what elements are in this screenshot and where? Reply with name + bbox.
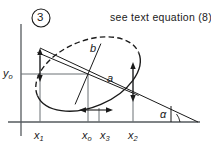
ellipse-solid-arc [37, 53, 151, 126]
x0-axis-label: xo [82, 130, 92, 142]
figure-caption: see text equation (8) [110, 12, 211, 23]
y0-sub: o [9, 72, 13, 81]
semi-major-axis-label: a [107, 73, 113, 84]
x2-axis-label: x2 [128, 130, 138, 142]
alpha-angle-arc [177, 114, 181, 122]
x2-sub: 2 [134, 134, 138, 143]
ellipse-dashed-arc [24, 22, 138, 95]
bottom-double-arrow [79, 107, 113, 112]
semi-minor-axis-label: b [90, 43, 96, 54]
x3-axis-label: x3 [100, 130, 110, 142]
projection-lines [21, 56, 133, 122]
x1-double-arrow [37, 48, 42, 82]
x0-sub: o [88, 134, 92, 143]
figure-panel: 3 see text equation (8) b a α yo x1 xo x… [0, 0, 211, 146]
alpha-angle-label: α [160, 109, 166, 120]
figure-number-label: 3 [37, 12, 43, 24]
y0-axis-label: yo [3, 68, 13, 80]
x3-sub: 3 [106, 134, 110, 143]
x1-axis-label: x1 [34, 130, 44, 142]
x1-sub: 1 [40, 134, 44, 143]
